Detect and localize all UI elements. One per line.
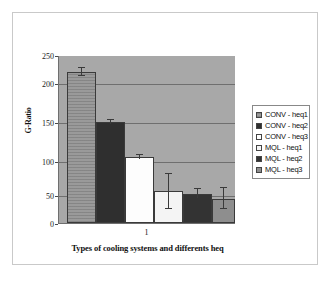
legend-swatch-icon-conv-heq2 bbox=[256, 123, 262, 129]
errorbar-cap-mql-heq1-bot bbox=[165, 208, 172, 209]
errorbar-cap-conv-heq1-top bbox=[78, 67, 85, 68]
errorbar-cap-mql-heq1-top bbox=[165, 173, 172, 174]
plot-area bbox=[58, 56, 235, 224]
legend-item-mql-heq2[interactable]: MQL - heq2 bbox=[256, 153, 306, 164]
legend-label-conv-heq1: CONV - heq1 bbox=[265, 110, 308, 119]
legend-item-conv-heq3[interactable]: CONV - heq3 bbox=[256, 131, 306, 142]
bar-conv-heq3[interactable] bbox=[125, 157, 154, 223]
bar-mql-heq2[interactable] bbox=[183, 194, 212, 223]
errorbar-cap-conv-heq1-bot bbox=[78, 75, 85, 76]
legend-swatch-icon-mql-heq2 bbox=[256, 156, 262, 162]
errorbar-cap-conv-heq3-top bbox=[136, 154, 143, 155]
errorbar-cap-mql-heq3-bot bbox=[220, 208, 227, 209]
legend-label-conv-heq2: CONV - heq2 bbox=[265, 121, 308, 130]
legend-label-mql-heq2: MQL - heq2 bbox=[265, 154, 302, 163]
errorbar-cap-mql-heq3-top bbox=[220, 187, 227, 188]
legend-label-mql-heq3: MQL - heq3 bbox=[265, 165, 302, 174]
legend-label-mql-heq1: MQL - heq1 bbox=[265, 143, 302, 152]
errorbar-mql-heq1 bbox=[168, 174, 169, 209]
errorbar-mql-heq3 bbox=[223, 188, 224, 209]
bar-conv-heq1[interactable] bbox=[67, 72, 96, 223]
legend-swatch-icon-mql-heq1 bbox=[256, 145, 262, 151]
legend-label-conv-heq3: CONV - heq3 bbox=[265, 132, 308, 141]
bar-conv-heq2[interactable] bbox=[96, 122, 125, 223]
chart-legend[interactable]: CONV - heq1 CONV - heq2 CONV - heq3 MQL … bbox=[252, 105, 310, 179]
legend-item-conv-heq1[interactable]: CONV - heq1 bbox=[256, 109, 306, 120]
legend-swatch-icon-mql-heq3 bbox=[256, 167, 262, 173]
legend-item-mql-heq1[interactable]: MQL - heq1 bbox=[256, 142, 306, 153]
x-category-label: 1 bbox=[58, 228, 235, 237]
legend-swatch-icon-conv-heq3 bbox=[256, 134, 262, 140]
y-axis-title: G-Ratio bbox=[24, 91, 33, 151]
x-axis-title: Types of cooling systems and differents … bbox=[20, 243, 275, 253]
errorbar-cap-conv-heq2-top bbox=[107, 119, 114, 120]
errorbar-cap-mql-heq2-top bbox=[194, 188, 201, 189]
legend-swatch-icon-conv-heq1 bbox=[256, 112, 262, 118]
errorbar-conv-heq2 bbox=[110, 120, 111, 124]
errorbar-conv-heq3 bbox=[139, 155, 140, 159]
legend-item-conv-heq2[interactable]: CONV - heq2 bbox=[256, 120, 306, 131]
legend-item-mql-heq3[interactable]: MQL - heq3 bbox=[256, 164, 306, 175]
errorbar-mql-heq2 bbox=[197, 189, 198, 198]
chart-figure: 250 200 150 100 50 0 G-Ratio 1 Types of … bbox=[0, 0, 332, 285]
